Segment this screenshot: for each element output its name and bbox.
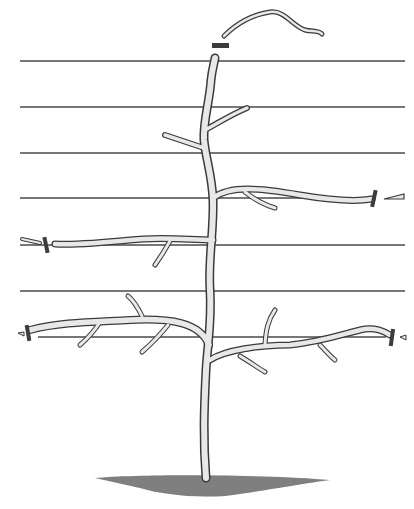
cut-shoot-icon	[384, 194, 404, 199]
soil-mound-icon	[95, 475, 330, 496]
wire-tie-icon	[212, 43, 229, 48]
espalier-drawing	[0, 0, 414, 509]
espalier-illustration: Horizontal espalier tree trained on wire…	[0, 0, 414, 509]
